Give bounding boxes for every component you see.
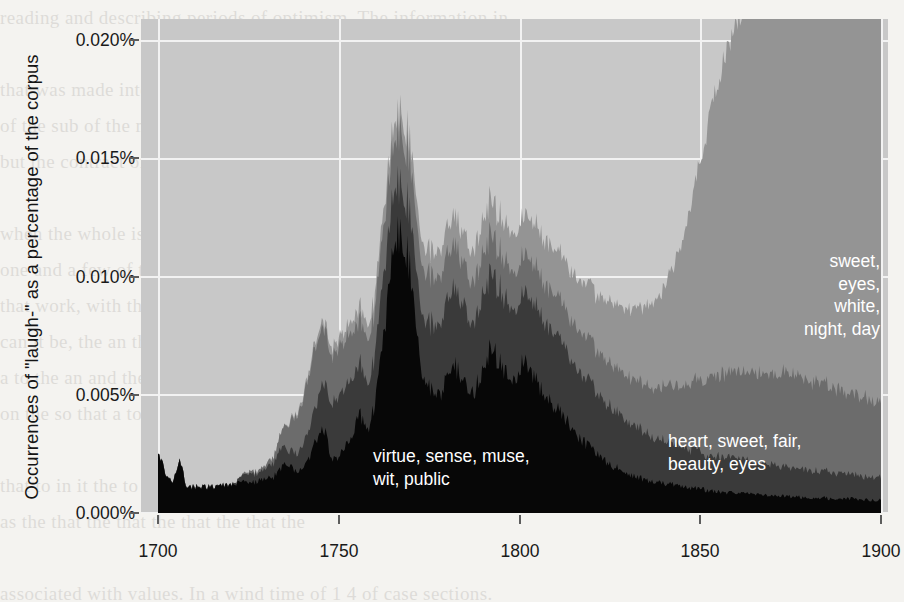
y-tick-label-1: 0.005% <box>76 385 135 406</box>
left-margin <box>141 19 158 513</box>
x-tick-label-1: 1750 <box>320 541 359 562</box>
y-tick-mark-1 <box>130 394 139 396</box>
x-tick-mark-4 <box>880 515 882 524</box>
x-tick-mark-2 <box>519 515 521 524</box>
x-tick-label-3: 1850 <box>681 541 720 562</box>
y-tick-mark-0 <box>130 512 139 514</box>
x-tick-label-0: 1700 <box>139 541 178 562</box>
x-tick-mark-0 <box>157 515 159 524</box>
x-tick-label-2: 1800 <box>501 541 540 562</box>
y-tick-mark-4 <box>130 39 139 41</box>
y-tick-mark-2 <box>130 276 139 278</box>
plot-area: sweet, eyes, white, night, day heart, sw… <box>141 19 888 513</box>
y-tick-label-4: 0.020% <box>76 30 135 51</box>
y-tick-mark-3 <box>130 157 139 159</box>
y-tick-label-3: 0.015% <box>76 148 135 169</box>
figure-stacked-area-chart: Occurrences of "laugh-" as a percentage … <box>0 0 904 602</box>
y-axis-label: Occurrences of "laugh-" as a percentage … <box>21 7 43 547</box>
annotation-topic-middle: heart, sweet, fair, beauty, eyes <box>668 430 801 475</box>
x-tick-mark-1 <box>338 515 340 524</box>
annotation-topic-bottom: virtue, sense, muse, wit, public <box>373 445 530 490</box>
x-tick-mark-3 <box>699 515 701 524</box>
y-tick-label-0: 0.000% <box>76 503 135 524</box>
annotation-topic-top: sweet, eyes, white, night, day <box>804 250 880 340</box>
x-tick-label-4: 1900 <box>862 541 901 562</box>
y-tick-label-2: 0.010% <box>76 267 135 288</box>
